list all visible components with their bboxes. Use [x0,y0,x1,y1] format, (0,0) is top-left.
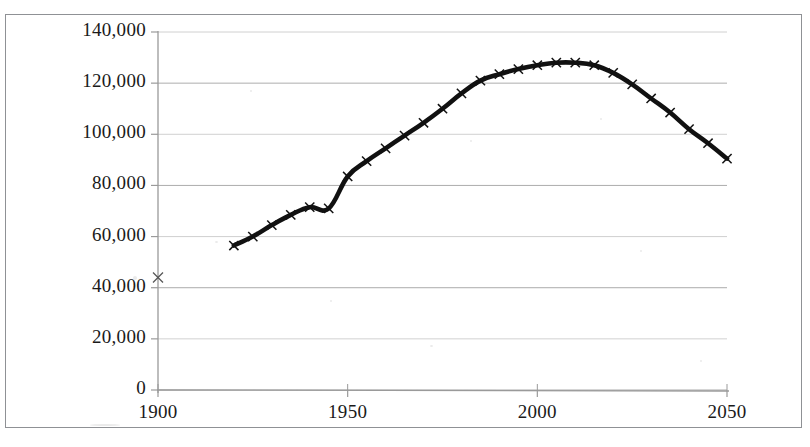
scan-speck [215,241,218,243]
series-line-population [234,62,727,245]
scan-speck [90,424,120,426]
chart-figure: 020,00040,00060,00080,000100,000120,0001… [0,0,810,447]
y-axis-tick-label: 40,000 [92,275,146,297]
y-axis-tick-label: 100,000 [82,121,146,143]
x-axis-tick-label: 2000 [487,401,587,423]
scan-speck [470,140,472,142]
x-axis-tick-label: 2050 [677,401,777,423]
y-axis-tick-label: 0 [136,377,146,399]
scan-speck [250,90,252,92]
y-axis-tick-label: 140,000 [82,19,146,41]
gridlines-group [158,32,727,390]
scan-speck [700,360,702,362]
scan-speck [640,250,642,252]
x-axis-tick-label: 1900 [108,401,208,423]
scan-speck [430,345,433,347]
data-series-line [234,62,727,245]
x-axis-tick-label: 1950 [298,401,398,423]
scan-speck [600,118,602,120]
y-axis-tick-label: 120,000 [82,70,146,92]
y-axis-tick-label: 60,000 [92,224,146,246]
scan-speck [330,300,332,302]
y-axis-tick-label: 80,000 [92,172,146,194]
y-axis-tick-label: 20,000 [92,326,146,348]
y-axis-ticks [151,32,158,390]
scan-speck [133,276,137,280]
